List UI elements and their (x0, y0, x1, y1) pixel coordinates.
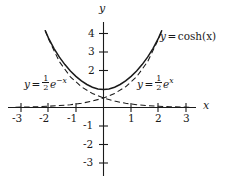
x-axis-label: x (203, 100, 209, 111)
cosh-label-function: cosh(x) (178, 30, 216, 42)
x-tick-label-3: 3 (183, 113, 190, 124)
x-tick-label-2: 2 (155, 113, 162, 124)
y-tick-label--3: -3 (83, 157, 93, 168)
exp-pos-label-exponent: x (169, 76, 173, 85)
x-tick-label-1: 1 (128, 113, 135, 124)
cosh-figure: y x -3 -2 -1 1 2 3 4 3 2 -1 -2 -3 y=cosh… (0, 0, 226, 182)
x-tick-label--3: -3 (12, 113, 22, 124)
exp-neg-exponent-var: x (63, 76, 67, 85)
exp-pos-label-equals: = (143, 78, 155, 90)
curve-label-cosh: y=cosh(x) (160, 31, 216, 42)
exp-pos-denominator: 2 (155, 83, 162, 91)
x-tick-label--1: -1 (67, 113, 77, 124)
exp-neg-label-fraction: 12 (42, 74, 49, 91)
exp-neg-label-exponent: −x (56, 76, 67, 85)
x-tick-label--2: -2 (39, 113, 49, 124)
y-tick-label-4: 4 (88, 28, 95, 39)
curve-label-half-exp-pos: y=12ex (137, 74, 173, 91)
cosh-label-equals: = (166, 30, 178, 42)
y-tick-label--1: -1 (83, 120, 93, 131)
axes-group (8, 22, 196, 176)
curve-label-half-exp-neg: y=12e−x (24, 74, 67, 91)
y-tick-label--2: -2 (83, 139, 93, 150)
y-tick-label-3: 3 (88, 46, 95, 57)
y-tick-label-2: 2 (88, 65, 95, 76)
exp-neg-denominator: 2 (42, 83, 49, 91)
exp-pos-label-fraction: 12 (155, 74, 162, 91)
exp-neg-label-equals: = (30, 78, 42, 90)
y-axis-label: y (99, 3, 105, 14)
